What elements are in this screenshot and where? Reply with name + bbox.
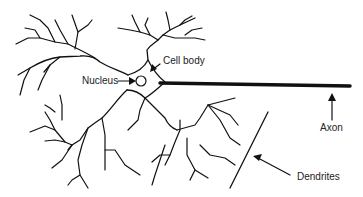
cell-body-label: Cell body (163, 56, 205, 66)
nucleus-label: Nucleus (82, 76, 118, 86)
dendrites-label: Dendrites (297, 172, 340, 182)
dendrite-indicator-line (230, 112, 268, 188)
neuron-diagram (0, 0, 363, 197)
dendrite (145, 98, 177, 130)
dendrite (147, 18, 195, 60)
dendrite (68, 90, 127, 150)
axon (160, 83, 350, 86)
axon-label: Axon (320, 123, 343, 133)
nucleus (136, 76, 146, 86)
dendrites-arrow (258, 158, 290, 175)
dendrite (18, 56, 128, 75)
